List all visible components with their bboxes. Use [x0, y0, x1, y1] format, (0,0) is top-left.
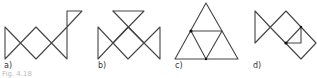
- panel-c-label: c): [175, 62, 183, 70]
- panel-b-drawing: [98, 11, 160, 59]
- panel-d-drawing: [255, 11, 316, 59]
- figure-caption: Fig. 4.18: [2, 71, 32, 78]
- panel-a-drawing: [5, 11, 82, 59]
- panel-a-label: a): [4, 62, 12, 70]
- panel-d-label: d): [253, 62, 261, 70]
- vertex-dot: [205, 58, 207, 60]
- panel-c-drawing: [175, 3, 238, 59]
- vertex-dot: [300, 26, 302, 28]
- vertex-dot: [284, 41, 287, 44]
- vertex-dot: [189, 29, 192, 32]
- panel-b-label: b): [98, 62, 106, 70]
- figure-diagrams: [0, 0, 317, 78]
